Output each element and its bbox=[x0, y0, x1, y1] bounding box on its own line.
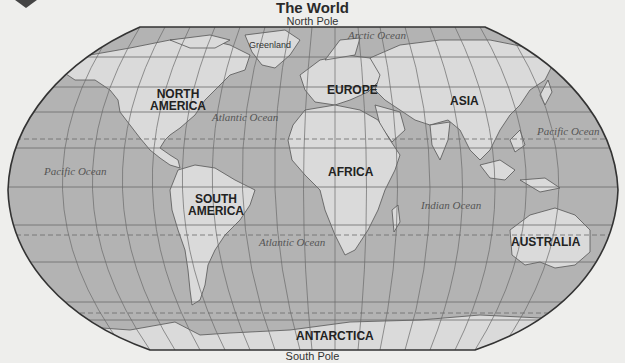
asia-label: ASIA bbox=[450, 95, 479, 107]
europe-label: EUROPE bbox=[327, 84, 378, 96]
pacific-ocean-east-label: Pacific Ocean bbox=[537, 125, 600, 137]
greenland-label: Greenland bbox=[249, 40, 291, 50]
south-pole-label: South Pole bbox=[0, 350, 625, 362]
north-america-label: NORTH AMERICA bbox=[150, 88, 206, 112]
atlantic-ocean-south-label: Atlantic Ocean bbox=[259, 236, 325, 248]
atlantic-ocean-north-label: Atlantic Ocean bbox=[212, 111, 278, 123]
antarctica-label: ANTARCTICA bbox=[296, 330, 374, 342]
south-america-label: SOUTH AMERICA bbox=[188, 193, 244, 217]
pacific-ocean-west-label: Pacific Ocean bbox=[44, 165, 107, 177]
australia-label: AUSTRALIA bbox=[511, 236, 580, 248]
indian-ocean-label: Indian Ocean bbox=[421, 199, 481, 211]
world-map bbox=[0, 0, 625, 363]
north-america-label-line2: AMERICA bbox=[150, 100, 206, 112]
arctic-ocean-label: Arctic Ocean bbox=[348, 29, 406, 41]
africa-label: AFRICA bbox=[328, 166, 373, 178]
south-america-label-line2: AMERICA bbox=[188, 205, 244, 217]
